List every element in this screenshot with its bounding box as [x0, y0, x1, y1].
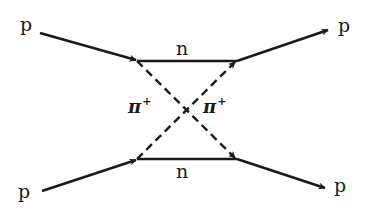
label-proton-in-bottom: p: [18, 182, 30, 201]
feynman-diagram: p p p p n n π+ π+: [0, 0, 367, 217]
label-pion-left: π+: [128, 96, 151, 116]
proton-out-top-line: [237, 30, 328, 61]
label-proton-in-top: p: [20, 15, 32, 34]
proton-in-top-line: [40, 33, 136, 60]
label-neutron-bottom: n: [176, 162, 188, 181]
proton-in-bottom-line: [42, 160, 136, 191]
label-proton-out-top: p: [338, 16, 350, 35]
diagram-lines: [0, 0, 367, 217]
label-neutron-top: n: [176, 39, 188, 58]
label-proton-out-bottom: p: [334, 176, 346, 195]
label-pion-right: π+: [203, 96, 226, 116]
proton-out-bottom-line: [237, 159, 325, 188]
